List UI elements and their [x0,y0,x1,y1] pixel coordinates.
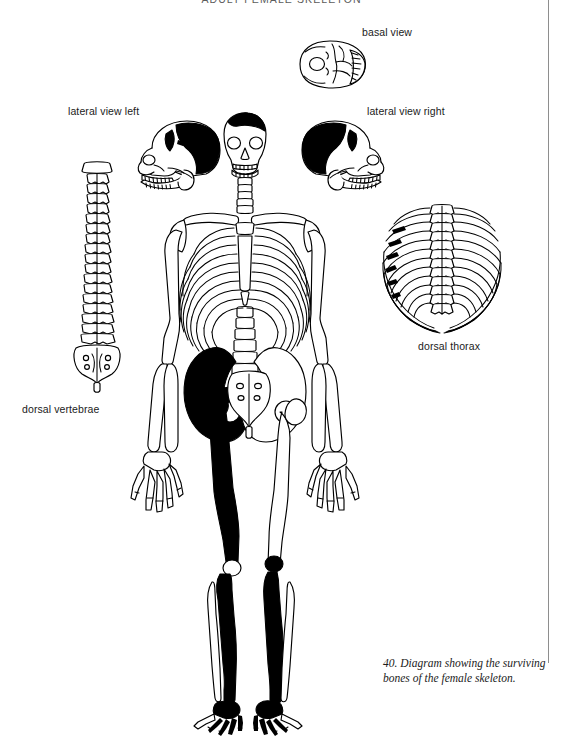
full-skeleton-svg [120,112,370,722]
label-dorsal-thorax: dorsal thorax [418,340,480,352]
label-lateral-view-right: lateral view right [367,105,445,117]
basal-skull-svg [292,38,370,90]
right-tibia-surviving [264,572,284,705]
dorsal-thorax-svg [372,202,512,334]
running-head: ADULT FEMALE SKELETON [0,0,563,5]
right-femur-head [285,399,306,425]
sternum [236,223,254,306]
page-margin-rule [548,0,549,663]
left-arm [131,230,183,512]
right-patella [265,556,283,572]
cervical-vertebrae [237,178,253,214]
right-arm [307,230,359,512]
dorsal-thorax-ribcage [372,202,512,334]
figure-caption: 40. Diagram showing the surviving bones … [383,656,555,685]
thoracic-vertebrae [430,205,454,315]
thoracolumbar-vertebrae [232,307,258,376]
left-hand [131,452,183,512]
right-ribs [453,208,501,317]
right-hand [307,452,359,512]
right-foot [253,701,302,736]
label-basal-view: basal view [362,26,412,38]
basal-view-skull [292,38,370,90]
label-dorsal-vertebrae: dorsal vertebrae [22,403,99,415]
page-canvas: ADULT FEMALE SKELETON basal view lateral… [0,0,563,755]
left-ribs [383,208,431,317]
full-skeleton [120,112,370,722]
skeleton-skull [224,113,266,178]
left-foot [194,701,243,736]
vertebra-stack [81,174,115,345]
